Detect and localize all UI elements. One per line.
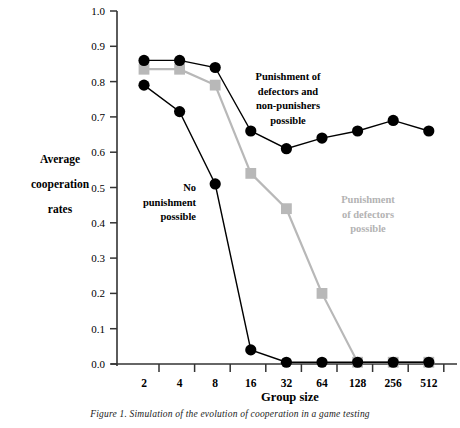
data-point-circle: [210, 178, 221, 189]
cooperation-line-chart: Punishment ofdefectors andnon-punishersp…: [0, 0, 460, 428]
annotation-punishment-of-defectors-line: Punishment: [341, 194, 395, 205]
data-point-circle: [174, 106, 185, 117]
annotation-punish-defectors-and-non-punishers-line: defectors and: [258, 86, 319, 97]
y-axis-title-line: rates: [48, 203, 73, 215]
y-axis-tick-label: 0.9: [91, 40, 105, 52]
annotation-no-punishment-line: No: [183, 182, 196, 193]
figure-caption: Figure 1. Simulation of the evolution of…: [0, 409, 460, 419]
x-axis-tick-label: 8: [212, 377, 218, 389]
y-axis-tick-label: 0.7: [91, 111, 105, 123]
y-axis-tick-label: 0.6: [91, 146, 105, 158]
annotation-punish-defectors-and-non-punishers-line: non-punishers: [256, 100, 320, 111]
y-axis-tick-label: 0.1: [91, 323, 105, 335]
annotation-punishment-of-defectors-line: possible: [350, 223, 386, 234]
x-axis-tick-label: 2: [141, 377, 147, 389]
annotation-no-punishment-line: punishment: [143, 197, 197, 208]
x-axis-tick-label: 4: [177, 377, 183, 389]
data-point-circle: [281, 143, 292, 154]
annotation-punishment-of-defectors-line: of defectors: [342, 209, 394, 220]
data-point-circle: [423, 125, 434, 136]
data-point-circle: [388, 357, 399, 368]
data-point-circle: [316, 357, 327, 368]
annotation-punish-defectors-and-non-punishers-line: Punishment of: [255, 71, 321, 82]
x-axis-tick-label: 512: [420, 377, 438, 389]
data-point-square: [317, 288, 328, 299]
data-point-circle: [423, 357, 434, 368]
series-line: [144, 85, 429, 362]
data-point-circle: [245, 344, 256, 355]
figure-container: Punishment ofdefectors andnon-punishersp…: [0, 0, 460, 428]
data-point-square: [245, 168, 256, 179]
annotation-punish-defectors-and-non-punishers: Punishment ofdefectors andnon-punishersp…: [255, 71, 321, 126]
y-axis-tick-label: 0.2: [91, 287, 105, 299]
data-point-circle: [138, 55, 149, 66]
x-axis-title: Group size: [261, 390, 319, 404]
data-point-circle: [174, 55, 185, 66]
y-axis-title-line: Average: [40, 153, 80, 166]
annotation-layer: Punishment ofdefectors andnon-punishersp…: [143, 71, 395, 234]
annotation-no-punishment: Nopunishmentpossible: [143, 182, 197, 222]
y-axis-tick-label: 0.0: [91, 358, 105, 370]
data-point-circle: [210, 62, 221, 73]
data-point-square: [210, 80, 221, 91]
data-point-circle: [138, 80, 149, 91]
y-axis-tick-label: 0.4: [91, 217, 105, 229]
data-point-circle: [281, 357, 292, 368]
x-axis-tick-label: 32: [281, 377, 293, 389]
y-axis-tick-label: 1.0: [91, 5, 105, 17]
y-axis-tick-label: 0.8: [91, 76, 105, 88]
annotation-punishment-of-defectors: Punishmentof defectorspossible: [341, 194, 395, 234]
axes-layer: [110, 11, 457, 372]
y-axis-tick-label: 0.5: [91, 182, 105, 194]
annotation-no-punishment-line: possible: [160, 211, 196, 222]
data-point-circle: [352, 125, 363, 136]
x-axis-tick-label: 256: [385, 377, 403, 389]
y-axis-tick-label: 0.3: [91, 252, 105, 264]
data-point-square: [281, 203, 292, 214]
data-point-circle: [245, 125, 256, 136]
data-point-circle: [316, 132, 327, 143]
x-axis-tick-label: 64: [316, 377, 328, 389]
annotation-punish-defectors-and-non-punishers-line: possible: [270, 115, 306, 126]
data-point-circle: [352, 357, 363, 368]
data-point-circle: [388, 115, 399, 126]
y-axis-title-line: cooperation: [31, 178, 90, 191]
x-axis-tick-label: 128: [349, 377, 367, 389]
x-axis-tick-label: 16: [245, 377, 257, 389]
